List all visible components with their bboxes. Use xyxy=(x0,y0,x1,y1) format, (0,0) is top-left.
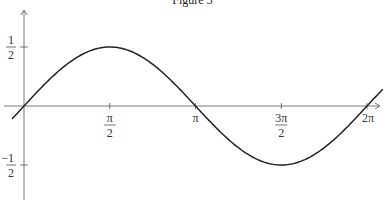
y-tick-label-denominator: 2 xyxy=(8,48,14,62)
x-tick-label-denominator: 2 xyxy=(278,126,284,140)
y-tick-label-numerator: 1 xyxy=(8,33,14,47)
y-tick-label-denominator: 2 xyxy=(8,166,14,180)
x-tick-label-numerator: 3π xyxy=(275,111,287,125)
x-tick-label-numerator: π xyxy=(107,111,113,125)
x-tick-label: 2π xyxy=(362,111,374,125)
y-tick-label-numerator: 1 xyxy=(8,151,14,165)
x-tick-label-denominator: 2 xyxy=(107,126,113,140)
x-tick-label: π xyxy=(193,111,199,125)
sine-chart: π2π3π22π12−12 xyxy=(0,0,385,202)
